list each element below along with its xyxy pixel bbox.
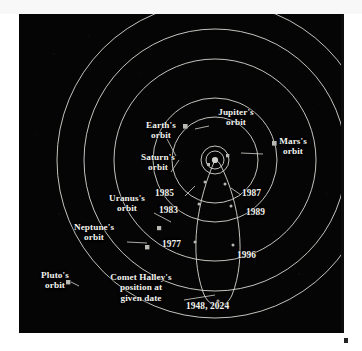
comet-date-markers [194,181,235,303]
comet-marker-1983 [198,203,201,206]
label-date-1996: 1996 [237,250,256,260]
label-date-1987: 1987 [242,188,261,198]
panel-edge-highlight [341,14,344,333]
label-date-1977: 1977 [162,239,181,249]
label-mars-orbit: Mars's orbit [262,136,324,157]
comet-marker-1996 [232,244,235,247]
label-neptune-orbit: Neptune's orbit [58,222,130,243]
mars-leader [241,153,263,154]
comet-marker-1989 [230,205,233,208]
neptune-marker [145,245,149,249]
label-earth-orbit: Earth's orbit [130,120,192,141]
label-date-1985: 1985 [155,188,174,198]
orbit-diagram-panel: Jupiter's orbit Earth's orbit Saturn's o… [19,14,344,333]
scan-corner-mark [344,338,348,343]
label-uranus-orbit: Uranus's orbit [93,193,161,214]
label-date-1948-2024: 1948, 2024 [186,301,229,311]
uranus-marker [157,226,161,230]
neptune-leader [127,242,147,243]
comet-halley-orbit-path [196,160,240,306]
earth-marker [207,163,210,166]
mars-marker [226,154,229,157]
label-date-1983: 1983 [159,205,178,215]
comet-marker-1977 [194,241,197,244]
label-date-1989: 1989 [246,207,265,217]
comet-marker-1985 [204,181,207,184]
label-saturn-orbit: Saturn's orbit [124,152,192,173]
label-comet-caption: Comet Halley's position at given date [92,272,190,303]
label-jupiter-orbit: Jupiter's orbit [203,107,269,128]
comet-marker-1987 [224,183,227,186]
figure-root: Jupiter's orbit Earth's orbit Saturn's o… [0,0,362,351]
label-pluto-orbit: Pluto's orbit [26,270,84,291]
scan-smudge-top [0,0,362,14]
